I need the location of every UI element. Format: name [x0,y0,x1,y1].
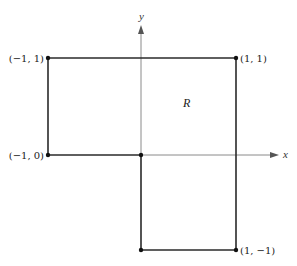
point-label-neg1-0: (−1, 0) [9,150,44,161]
y-axis-arrow-icon [138,25,144,34]
x-axis-arrow-icon [270,152,279,158]
vertex-dot [46,56,50,60]
point-label-1-1: (1, 1) [240,53,267,64]
vertex-dot [234,248,238,252]
axes: x y [138,10,288,160]
region-label: R [182,96,191,110]
y-axis-label: y [138,10,144,22]
vertex-dot [234,56,238,60]
x-axis-label: x [282,148,288,160]
vertex-dot [46,153,50,157]
vertex-dots [46,56,238,252]
point-label-1-neg1: (1, −1) [240,245,275,256]
region-diagram: x y (−1, 1) (1, 1) (−1, 0) (1, −1) R [0,0,297,266]
point-label-neg1-1: (−1, 1) [9,53,44,64]
vertex-dot [139,153,143,157]
vertex-dot [139,248,143,252]
